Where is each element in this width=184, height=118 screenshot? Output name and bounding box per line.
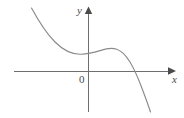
math-figure: y x 0 — [0, 0, 184, 118]
x-axis-label: x — [172, 74, 177, 85]
origin-label: 0 — [79, 74, 85, 85]
function-curve — [32, 8, 151, 112]
y-axis-arrowhead — [85, 7, 92, 15]
y-axis-label: y — [77, 5, 82, 16]
graph-canvas — [0, 0, 184, 118]
